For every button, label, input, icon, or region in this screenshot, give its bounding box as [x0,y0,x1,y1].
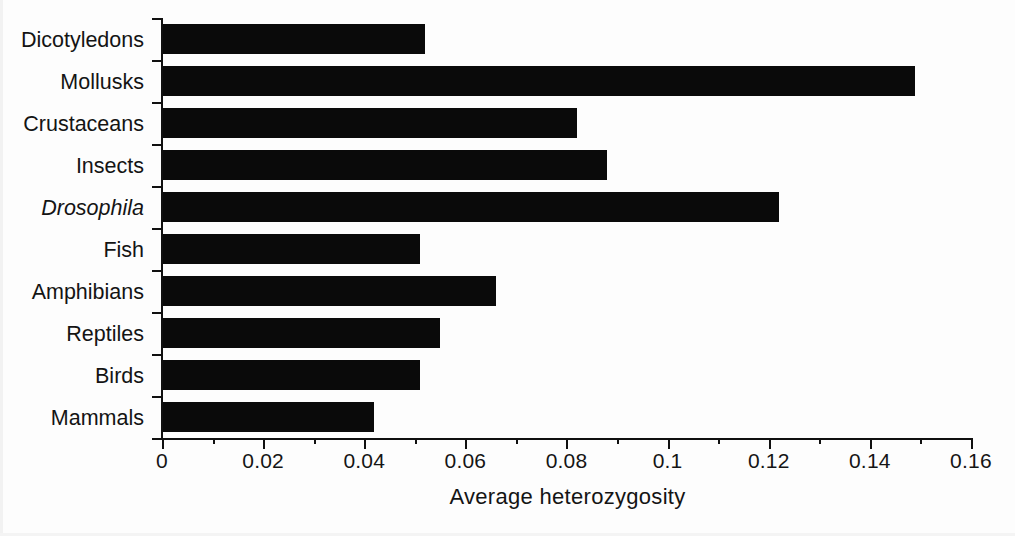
bar [162,66,915,96]
x-axis-tick-label: 0.06 [445,449,487,473]
category-label: Reptiles [66,324,144,346]
bar [162,276,496,306]
y-axis-tick [152,186,162,188]
category-label: Mammals [51,408,144,430]
x-axis-tick-minor [314,438,316,444]
y-axis-tick [152,18,162,20]
category-label: Birds [95,366,144,388]
bar [162,150,607,180]
x-axis-tick-label: 0.12 [748,449,790,473]
x-axis-title: Average heterozygosity [162,484,973,510]
category-axis-labels: DicotyledonsMollusksCrustaceansInsectsDr… [0,0,152,460]
bar [162,402,374,432]
x-axis-tick-major [566,438,568,449]
x-axis-tick-minor [415,438,417,444]
x-axis-tick-minor [516,438,518,444]
category-label: Insects [76,156,144,178]
category-label: Drosophila [41,198,144,220]
x-axis-tick-major [364,438,366,449]
category-label: Fish [103,240,144,262]
y-axis-tick [152,312,162,314]
x-axis-tick-major [668,438,670,449]
plot-area [162,18,972,438]
y-axis-tick [152,228,162,230]
x-axis-tick-label: 0 [156,449,168,473]
category-label: Crustaceans [23,114,144,136]
x-axis-tick-major [263,438,265,449]
bar [162,234,420,264]
bar [162,360,420,390]
y-axis-tick [152,438,162,440]
x-axis-tick-minor [920,438,922,444]
y-axis-tick [152,60,162,62]
y-axis-tick [152,270,162,272]
bar [162,192,779,222]
bar [162,318,440,348]
y-axis-tick [152,354,162,356]
category-label: Dicotyledons [21,30,144,52]
x-axis-tick-label: 0.1 [653,449,683,473]
x-axis-tick-label: 0.16 [950,449,992,473]
x-axis-tick-major [971,438,973,449]
category-label: Amphibians [32,282,144,304]
x-axis-tick-label: 0.14 [849,449,891,473]
y-axis-tick [152,396,162,398]
bar [162,24,425,54]
x-axis-tick-label: 0.02 [242,449,284,473]
x-axis-tick-minor [213,438,215,444]
y-axis-tick [152,144,162,146]
x-axis-tick-major [870,438,872,449]
x-axis-tick-minor [617,438,619,444]
bar [162,108,577,138]
category-label: Mollusks [60,72,144,94]
x-axis-tick-label: 0.04 [343,449,385,473]
x-axis-tick-major [769,438,771,449]
y-axis-tick [152,102,162,104]
x-axis-tick-major [465,438,467,449]
x-axis-tick-label: 0.08 [546,449,588,473]
x-axis-tick-minor [718,438,720,444]
chart-figure: DicotyledonsMollusksCrustaceansInsectsDr… [0,0,1015,536]
x-axis-tick-minor [819,438,821,444]
x-axis-tick-major [162,438,164,449]
